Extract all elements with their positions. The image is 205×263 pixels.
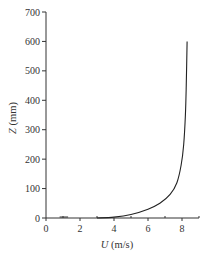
velocity-profile-line xyxy=(97,41,187,218)
x-tick-label: 8 xyxy=(180,223,185,234)
y-tick-label: 100 xyxy=(25,183,40,194)
y-tick-label: 500 xyxy=(25,65,40,76)
y-tick-label: 200 xyxy=(25,154,40,165)
x-tick-label: 6 xyxy=(146,223,151,234)
y-tick-label: 400 xyxy=(25,95,40,106)
x-tick-label: 0 xyxy=(44,223,49,234)
x-tick-label: 4 xyxy=(112,223,117,234)
x-tick-label: 2 xyxy=(78,223,83,234)
x-axis-label: U (m/s) xyxy=(101,239,134,251)
chart: 0100200300400500600700 02468 Z (mm) U (m… xyxy=(0,0,205,263)
y-axis: 0100200300400500600700 xyxy=(25,7,46,224)
y-tick-label: 700 xyxy=(25,7,40,18)
y-axis-label: Z (mm) xyxy=(7,102,19,134)
y-tick-label: 0 xyxy=(35,213,40,224)
y-tick-label: 300 xyxy=(25,124,40,135)
x-axis: 02468 xyxy=(44,216,200,234)
plot-area xyxy=(97,41,187,218)
y-tick-label: 600 xyxy=(25,36,40,47)
